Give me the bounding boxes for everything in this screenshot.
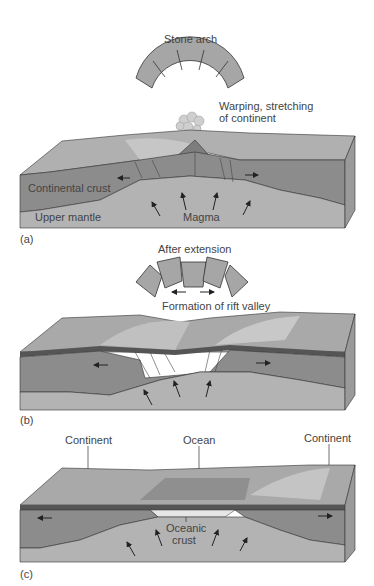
rift-valley-annotation: Formation of rift valley: [162, 300, 270, 312]
arch-title-b: After extension: [158, 243, 231, 255]
warping-annotation-line1: Warping, stretching: [219, 100, 313, 112]
continental-crust-label: Continental crust: [28, 182, 111, 194]
oceanic-crust-label-line2: crust: [172, 534, 196, 546]
panel-label-c: (c): [20, 568, 33, 580]
continent-label-right: Continent: [304, 432, 351, 444]
magma-label: Magma: [183, 211, 220, 223]
arch-title-a: Stone arch: [164, 33, 217, 45]
split-arch: [136, 257, 248, 297]
panel-a-artwork: [20, 37, 355, 228]
rift-diagram-artwork: [0, 0, 374, 586]
ocean-label: Ocean: [183, 434, 215, 446]
upper-mantle-label: Upper mantle: [35, 211, 101, 223]
continent-label-left: Continent: [65, 434, 112, 446]
panel-label-a: (a): [20, 233, 33, 245]
panel-label-b: (b): [20, 414, 33, 426]
oceanic-crust-label-line1: Oceanic: [166, 522, 206, 534]
panel-b-artwork: [20, 257, 355, 410]
warping-annotation-line2: of continent: [219, 112, 276, 124]
